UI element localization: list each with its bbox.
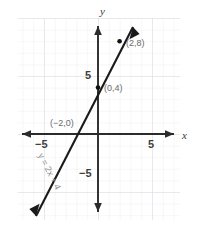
point-label-2-8: (2,8) — [126, 39, 145, 48]
y-tick-label-5: 5 — [85, 70, 91, 81]
x-tick-label-5: 5 — [148, 139, 154, 150]
graph-figure: y x 5 −5 −5 5 (2,8) (0,4) (−2,0) y = 2x … — [0, 0, 198, 233]
point-marker-2-8 — [117, 39, 122, 44]
grid-layer — [18, 18, 180, 220]
point-marker-0-4 — [96, 85, 101, 90]
x-tick-label-neg5: −5 — [35, 139, 48, 150]
point-label-0-4: (0,4) — [104, 84, 123, 93]
x-axis-label: x — [182, 130, 187, 141]
y-tick-label-neg5: −5 — [79, 168, 92, 179]
coordinate-plane-svg — [0, 0, 198, 233]
y-axis-label: y — [100, 6, 105, 17]
point-label-neg2-0: (−2,0) — [50, 119, 74, 128]
